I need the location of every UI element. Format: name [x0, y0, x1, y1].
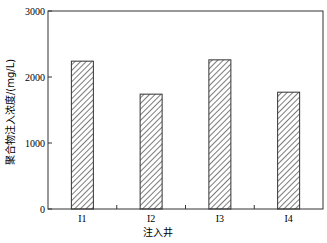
y-tick-label: 1000 — [25, 138, 45, 149]
bar-I2 — [140, 94, 162, 209]
x-axis: I1I2I3I4 — [78, 205, 293, 224]
y-tick-label: 0 — [40, 204, 45, 215]
y-tick-label: 3000 — [25, 6, 45, 17]
y-tick-label: 2000 — [25, 72, 45, 83]
bars — [71, 60, 299, 209]
y-axis-label: 聚合物注入浓度/(mg/L) — [4, 59, 16, 165]
x-tick-label: I4 — [284, 213, 292, 224]
x-tick-label: I3 — [216, 213, 224, 224]
bar-I3 — [209, 60, 231, 209]
x-tick-label: I1 — [78, 213, 86, 224]
x-tick-label: I2 — [147, 213, 155, 224]
bar-I4 — [278, 92, 300, 209]
bar-chart: 0100020003000 I1I2I3I4 聚合物注入浓度/(mg/L) 注入… — [0, 0, 327, 243]
x-axis-label: 注入井 — [143, 226, 173, 238]
bar-I1 — [71, 61, 93, 209]
